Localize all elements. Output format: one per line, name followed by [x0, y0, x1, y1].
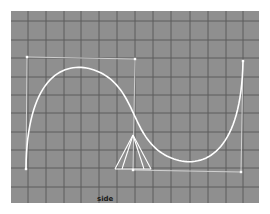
control-vertex[interactable]: [134, 58, 136, 60]
control-vertex[interactable]: [26, 56, 28, 58]
control-vertex[interactable]: [240, 171, 242, 173]
grid: [11, 11, 259, 203]
control-vertex[interactable]: [242, 60, 244, 62]
viewport-canvas[interactable]: [11, 11, 259, 203]
control-vertex[interactable]: [25, 168, 27, 170]
side-viewport[interactable]: side: [11, 11, 259, 203]
view-label: side: [97, 195, 113, 203]
